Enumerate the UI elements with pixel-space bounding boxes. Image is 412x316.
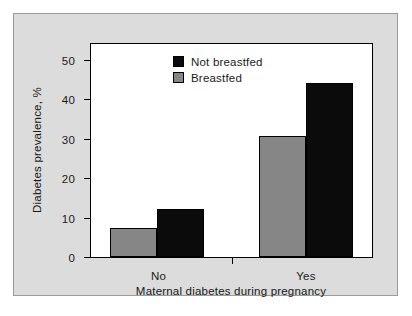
y-tick-50: 50 [84, 60, 91, 61]
bar-no-not-breastfed [157, 209, 204, 257]
legend-item-breastfed: Breastfed [173, 71, 263, 84]
y-tick-0: 0 [84, 257, 91, 258]
y-tick-40: 40 [84, 99, 91, 100]
x-axis-title: Maternal diabetes during pregnancy [136, 285, 326, 297]
y-tick-label-40: 40 [62, 94, 75, 106]
plot-frame: 0 10 20 30 40 50 [90, 43, 373, 258]
y-tick-20: 20 [84, 178, 91, 179]
x-tick-label-no: No [151, 270, 166, 282]
black-swatch-icon [173, 56, 184, 67]
y-tick-10: 10 [84, 218, 91, 219]
y-tick-label-20: 20 [62, 173, 75, 185]
y-tick-30: 30 [84, 139, 91, 140]
legend-label-breastfed: Breastfed [191, 72, 242, 84]
x-tick-label-yes: Yes [296, 270, 315, 282]
y-axis-title: Diabetes prevalence, % [31, 87, 43, 213]
legend-label-not-breastfed: Not breastfed [191, 56, 263, 68]
figure-panel: Diabetes prevalence, % Maternal diabetes… [13, 13, 398, 296]
y-tick-label-30: 30 [62, 134, 75, 146]
y-tick-label-0: 0 [68, 252, 75, 264]
y-tick-label-50: 50 [62, 55, 75, 67]
bar-yes-not-breastfed [306, 83, 353, 257]
figure: Diabetes prevalence, % Maternal diabetes… [0, 0, 412, 316]
bar-yes-breastfed [259, 136, 306, 257]
legend: Not breastfed Breastfed [173, 55, 263, 87]
y-tick-label-10: 10 [62, 213, 75, 225]
gray-swatch-icon [173, 72, 184, 83]
plot-area: 0 10 20 30 40 50 [91, 44, 372, 257]
x-tick-separator [232, 257, 233, 264]
legend-item-not-breastfed: Not breastfed [173, 55, 263, 68]
bar-no-breastfed [110, 228, 157, 257]
